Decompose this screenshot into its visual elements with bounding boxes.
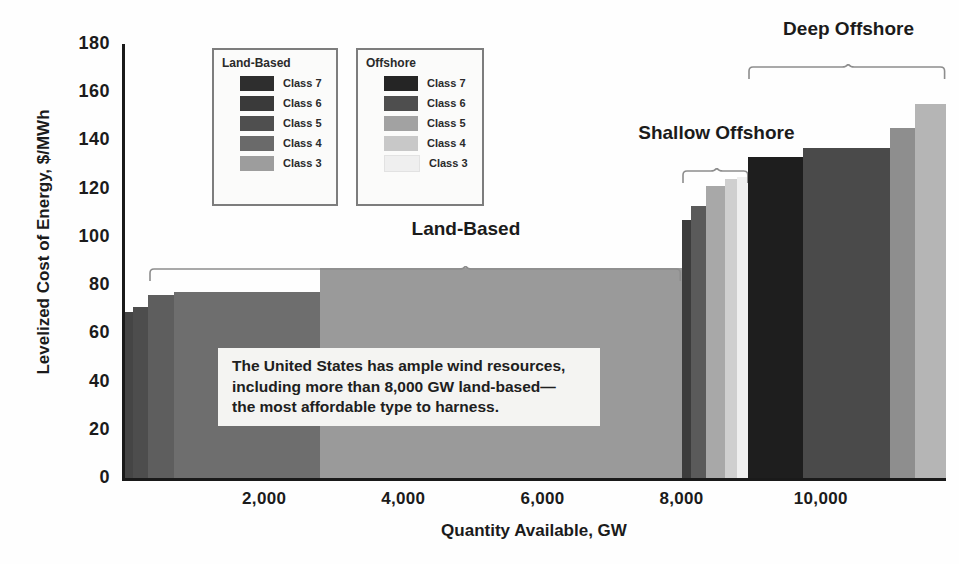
bracket-land-based bbox=[149, 266, 681, 282]
y-tick-label: 140 bbox=[48, 129, 110, 150]
x-axis-title: Quantity Available, GW bbox=[122, 521, 946, 541]
legend-offshore-item: Class 5 bbox=[384, 113, 474, 133]
bracket-label-land-based: Land-Based bbox=[412, 218, 521, 240]
legend-offshore-item: Class 3 bbox=[384, 153, 474, 173]
x-tick-label: 8,000 bbox=[660, 489, 704, 509]
y-tick-label: 80 bbox=[48, 274, 110, 295]
bar bbox=[682, 220, 692, 478]
y-tick-label: 100 bbox=[48, 226, 110, 247]
y-axis-title: Levelized Cost of Energy, $/MWh bbox=[34, 102, 54, 382]
legend-swatch-icon bbox=[240, 76, 274, 91]
legend-offshore: Offshore Class 7Class 6Class 5Class 4Cla… bbox=[356, 48, 484, 206]
bracket-label-deep-offshore: Deep Offshore bbox=[783, 18, 914, 40]
legend-offshore-label: Class 7 bbox=[427, 77, 466, 89]
legend-land-based-label: Class 7 bbox=[283, 77, 322, 89]
bar bbox=[725, 179, 737, 478]
legend-land-based-item: Class 6 bbox=[240, 93, 328, 113]
callout-line-3: the most affordable type to harness. bbox=[232, 398, 499, 415]
x-tick-label: 6,000 bbox=[520, 489, 564, 509]
legend-offshore-title: Offshore bbox=[366, 56, 474, 70]
x-tick-label: 10,000 bbox=[794, 489, 848, 509]
bar bbox=[706, 186, 725, 478]
bar bbox=[803, 148, 890, 478]
y-tick-label: 20 bbox=[48, 419, 110, 440]
x-tick-label: 4,000 bbox=[381, 489, 425, 509]
legend-land-based-item: Class 3 bbox=[240, 153, 328, 173]
bar bbox=[125, 312, 133, 478]
legend-swatch-icon bbox=[384, 155, 420, 172]
bar bbox=[890, 128, 914, 478]
callout-line-1: The United States has ample wind resourc… bbox=[232, 357, 565, 374]
legend-swatch-icon bbox=[240, 96, 274, 111]
legend-offshore-item: Class 4 bbox=[384, 133, 474, 153]
legend-swatch-icon bbox=[384, 96, 418, 111]
legend-swatch-icon bbox=[384, 116, 418, 131]
legend-land-based: Land-Based Class 7Class 6Class 5Class 4C… bbox=[212, 48, 338, 206]
bar bbox=[133, 307, 148, 478]
legend-swatch-icon bbox=[240, 116, 274, 131]
y-tick-label: 180 bbox=[48, 33, 110, 54]
bar bbox=[691, 206, 706, 478]
callout-line-2: including more than 8,000 GW land-based— bbox=[232, 378, 556, 395]
bar bbox=[915, 104, 946, 478]
legend-land-based-item: Class 4 bbox=[240, 133, 328, 153]
y-tick-label: 0 bbox=[48, 467, 110, 488]
y-tick-label: 160 bbox=[48, 81, 110, 102]
bar bbox=[748, 157, 803, 478]
legend-swatch-icon bbox=[240, 136, 274, 151]
legend-offshore-label: Class 3 bbox=[429, 157, 468, 169]
bracket-shallow-offshore bbox=[682, 168, 749, 184]
legend-offshore-rows: Class 7Class 6Class 5Class 4Class 3 bbox=[366, 73, 474, 173]
legend-swatch-icon bbox=[240, 156, 274, 171]
legend-land-based-label: Class 3 bbox=[283, 157, 322, 169]
legend-offshore-label: Class 5 bbox=[427, 117, 466, 129]
bar bbox=[737, 177, 749, 478]
y-tick-label: 120 bbox=[48, 178, 110, 199]
legend-land-based-label: Class 6 bbox=[283, 97, 322, 109]
bracket-label-shallow-offshore: Shallow Offshore bbox=[638, 122, 794, 144]
bar bbox=[148, 295, 174, 478]
legend-land-based-label: Class 4 bbox=[283, 137, 322, 149]
legend-land-based-item: Class 5 bbox=[240, 113, 328, 133]
legend-swatch-icon bbox=[384, 76, 418, 91]
y-tick-label: 60 bbox=[48, 322, 110, 343]
legend-offshore-item: Class 7 bbox=[384, 73, 474, 93]
legend-offshore-label: Class 6 bbox=[427, 97, 466, 109]
bracket-deep-offshore bbox=[748, 64, 946, 80]
y-tick-label: 40 bbox=[48, 371, 110, 392]
legend-land-based-rows: Class 7Class 6Class 5Class 4Class 3 bbox=[222, 73, 328, 173]
legend-offshore-item: Class 6 bbox=[384, 93, 474, 113]
legend-land-based-item: Class 7 bbox=[240, 73, 328, 93]
legend-swatch-icon bbox=[384, 136, 418, 151]
x-tick-label: 2,000 bbox=[242, 489, 286, 509]
legend-land-based-title: Land-Based bbox=[222, 56, 328, 70]
chart-figure: 020406080100120140160180 Levelized Cost … bbox=[0, 0, 959, 564]
callout-box: The United States has ample wind resourc… bbox=[218, 348, 600, 426]
legend-offshore-label: Class 4 bbox=[427, 137, 466, 149]
legend-land-based-label: Class 5 bbox=[283, 117, 322, 129]
